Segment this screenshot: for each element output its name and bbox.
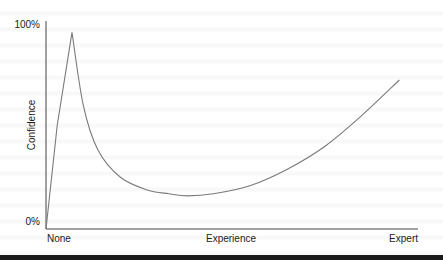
x-tick-expert: Expert (389, 233, 418, 244)
bottom-border (0, 255, 443, 260)
y-tick-0: 0% (26, 216, 41, 227)
y-axis-label: Confidence (26, 99, 37, 150)
x-tick-none: None (47, 233, 71, 244)
x-axis-label: Experience (206, 233, 256, 244)
confidence-experience-chart: 100% 0% Confidence None Experience Exper… (0, 0, 443, 255)
y-tick-100: 100% (14, 19, 40, 30)
confidence-curve (46, 32, 399, 229)
